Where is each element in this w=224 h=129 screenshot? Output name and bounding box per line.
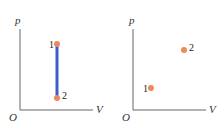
right-origin-label: O	[122, 111, 130, 123]
right-p-label: p	[128, 14, 135, 26]
left-p-label: p	[14, 14, 21, 26]
right-pv-diagram: p V O 1 2	[122, 14, 217, 123]
left-v-label: V	[96, 103, 104, 115]
left-point-2	[54, 95, 60, 101]
left-point-2-label: 2	[62, 90, 67, 101]
left-point-1	[54, 41, 60, 47]
left-point-1-label: 1	[49, 39, 54, 50]
right-v-label: V	[209, 103, 217, 115]
left-pv-diagram: p V O 1 2	[9, 14, 104, 123]
right-point-1	[148, 85, 154, 91]
right-point-2-label: 2	[189, 42, 194, 53]
left-origin-label: O	[9, 111, 17, 123]
right-point-2	[181, 47, 187, 53]
pv-diagrams: p V O 1 2 p V O 1 2	[0, 0, 224, 129]
right-point-1-label: 1	[143, 83, 148, 94]
